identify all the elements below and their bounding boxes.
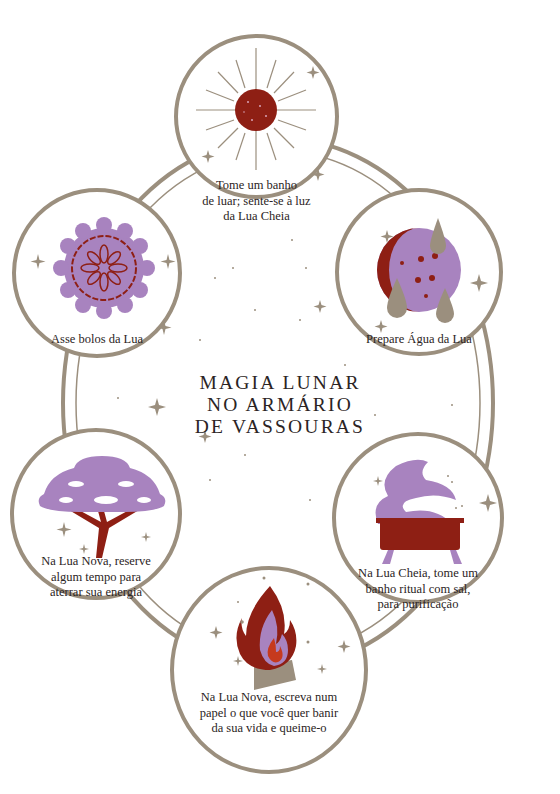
mooncake-icon bbox=[16, 192, 178, 354]
moon-magic-diagram: Tome um banho de luar; sente-se à luz da… bbox=[0, 0, 560, 794]
caption-mooncakes: Asse bolos da Lua bbox=[16, 332, 178, 348]
node-grounding: Na Lua Nova, reserve algum tempo para at… bbox=[10, 428, 182, 600]
fire-icon bbox=[174, 570, 364, 770]
node-mooncakes: Asse bolos da Lua bbox=[12, 188, 182, 358]
sun-moon-icon bbox=[178, 38, 335, 195]
caption-moon-water: Prepare Água da Lua bbox=[339, 332, 499, 348]
node-moon-bath: Tome um banho de luar; sente-se à luz da… bbox=[174, 34, 339, 199]
node-burn-paper: Na Lua Nova, escreva num papel o que voc… bbox=[170, 566, 368, 774]
node-moon-water: Prepare Água da Lua bbox=[335, 188, 503, 356]
caption-grounding: Na Lua Nova, reserve algum tempo para at… bbox=[14, 554, 178, 601]
caption-moon-bath: Tome um banho de luar; sente-se à luz da… bbox=[178, 178, 335, 225]
diagram-title: MAGIA LUNAR NO ARMÁRIO DE VASSOURAS bbox=[170, 372, 390, 438]
moon-water-icon bbox=[339, 192, 499, 352]
caption-burn-paper: Na Lua Nova, escreva num papel o que voc… bbox=[174, 690, 364, 737]
